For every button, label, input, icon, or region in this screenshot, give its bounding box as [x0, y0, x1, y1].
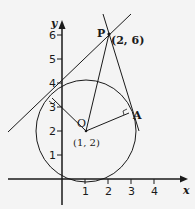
diagram-canvas: 1 2 3 4 1 2 3 4 5 6 x y P (2, 6) O (1, 2…	[0, 0, 195, 209]
x-tick-3: 3	[128, 185, 135, 198]
line-OP	[86, 34, 109, 131]
point-O	[85, 130, 88, 133]
y-axis-label: y	[50, 17, 59, 30]
label-P-coords: (2, 6)	[111, 34, 144, 47]
radius-to-A	[86, 113, 129, 131]
y-axis-arrow-icon	[59, 20, 66, 29]
label-A: A	[132, 109, 142, 122]
y-tick-2: 2	[49, 125, 56, 138]
y-tick-5: 5	[49, 53, 56, 66]
x-axis-arrow-icon	[180, 176, 188, 183]
label-O-coords: (1, 2)	[73, 137, 100, 148]
label-O: O	[77, 117, 86, 130]
x-axis-label: x	[182, 184, 190, 197]
label-P: P	[97, 27, 105, 40]
y-tick-3: 3	[49, 101, 56, 114]
y-tick-4: 4	[49, 77, 56, 90]
x-tick-4: 4	[151, 185, 158, 198]
x-tick-2: 2	[105, 185, 112, 198]
y-tick-6: 6	[49, 29, 56, 42]
y-tick-1: 1	[49, 149, 56, 162]
x-tick-1: 1	[82, 185, 89, 198]
diagram-svg: 1 2 3 4 1 2 3 4 5 6 x y P (2, 6) O (1, 2…	[0, 0, 195, 209]
